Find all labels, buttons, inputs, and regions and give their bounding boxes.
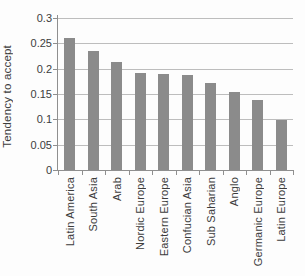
x-tick-label-south-asia: South Asia	[85, 177, 101, 232]
x-tick-mark	[246, 171, 247, 175]
bar-nordic-europe	[135, 73, 146, 170]
y-axis-title: Tendency to accept	[1, 45, 13, 148]
y-tick-label: 0.3	[20, 12, 52, 25]
bar-chart-figure: Tendency to accept 00.050.10.150.20.250.…	[0, 0, 305, 276]
x-tick-mark	[223, 171, 224, 175]
bar-sub-saharian	[205, 83, 216, 170]
x-tick-mark	[152, 171, 153, 175]
x-tick-label-confucian-asia: Confucian Asia	[179, 177, 195, 253]
x-tick-label-arab: Arab	[109, 177, 125, 201]
x-tick-label-latin-america: Latin America	[62, 177, 78, 246]
y-tick-label: 0.2	[20, 63, 52, 76]
x-tick-label-sub-saharian: Sub Saharian	[203, 177, 219, 246]
bar-latin-europe	[276, 120, 287, 170]
x-tick-mark	[199, 171, 200, 175]
x-tick-label-anglo: Anglo	[226, 177, 242, 206]
bar-arab	[111, 62, 122, 170]
bar-anglo	[229, 92, 240, 170]
x-tick-mark	[176, 171, 177, 175]
gridline	[58, 18, 293, 19]
bar-south-asia	[88, 51, 99, 170]
x-tick-label-germanic-europe: Germanic Europe	[250, 177, 266, 266]
y-tick-label: 0.15	[20, 88, 52, 101]
x-tick-label-nordic-europe: Nordic Europe	[132, 177, 148, 250]
y-tick-label: 0	[20, 164, 52, 177]
y-tick-label: 0.05	[20, 139, 52, 152]
bar-confucian-asia	[182, 75, 193, 170]
y-tick-label: 0.1	[20, 113, 52, 126]
x-tick-mark	[270, 171, 271, 175]
x-tick-label-latin-europe: Latin Europe	[273, 177, 289, 242]
y-tick-label: 0.25	[20, 37, 52, 50]
bar-latin-america	[64, 38, 75, 170]
x-tick-mark	[293, 171, 294, 175]
x-tick-mark	[82, 171, 83, 175]
y-axis-line	[57, 15, 58, 171]
bar-germanic-europe	[252, 100, 263, 170]
x-tick-mark	[129, 171, 130, 175]
x-tick-mark	[58, 171, 59, 175]
x-tick-mark	[105, 171, 106, 175]
gridline	[58, 43, 293, 44]
x-tick-label-eastern-europe: Eastern Europe	[156, 177, 172, 256]
bar-eastern-europe	[158, 74, 169, 170]
